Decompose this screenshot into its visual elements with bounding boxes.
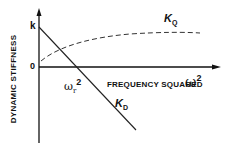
y-axis-label: DYNAMIC STIFFNESS <box>9 35 18 124</box>
y-tick-zero: 0 <box>30 62 35 71</box>
omega-symbol: ω <box>185 74 196 90</box>
exponent: 2 <box>196 73 201 83</box>
wr-subscript: r <box>73 87 76 95</box>
kd-subscript: D <box>123 104 128 111</box>
wr-exponent: 2 <box>76 77 81 87</box>
kq-symbol: K <box>164 12 172 24</box>
kq-dashed-curve <box>41 32 200 61</box>
kd-label: KD <box>115 98 128 111</box>
resonance-label: ωr2 <box>64 78 81 95</box>
kq-label: KQ <box>164 13 177 26</box>
kd-symbol: K <box>115 97 123 109</box>
kq-subscript: Q <box>172 19 177 26</box>
x-axis-symbol: ω2 <box>185 74 201 89</box>
kd-line <box>39 27 136 130</box>
x-axis <box>39 65 221 70</box>
wr-symbol: ω <box>64 80 73 93</box>
y-tick-k: k <box>30 21 36 31</box>
